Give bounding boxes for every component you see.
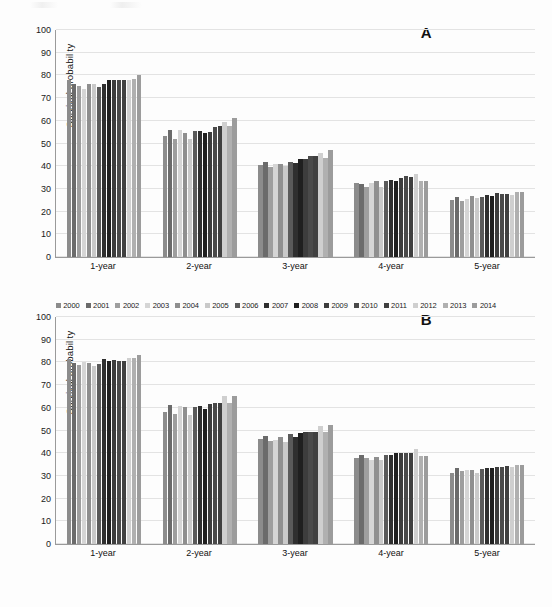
- bar: [168, 405, 172, 544]
- bar-group-bars: [67, 317, 142, 544]
- bar: [465, 470, 469, 544]
- y-axis-tick-label: 20: [41, 494, 51, 504]
- bar: [475, 473, 479, 544]
- bar-group: [152, 317, 248, 544]
- bar: [283, 166, 287, 257]
- bar: [183, 407, 187, 544]
- bar: [97, 364, 101, 544]
- y-axis-tick-label: 20: [41, 207, 51, 217]
- bar: [490, 468, 494, 544]
- bar: [92, 366, 96, 544]
- bar: [137, 355, 141, 544]
- bar: [87, 84, 91, 257]
- bar: [354, 183, 358, 257]
- bar: [67, 359, 71, 544]
- bar: [203, 409, 207, 544]
- bar: [485, 468, 489, 544]
- bar: [404, 453, 408, 544]
- bar: [495, 193, 499, 257]
- bar: [163, 412, 167, 544]
- bar: [97, 87, 101, 257]
- bar: [490, 196, 494, 257]
- bar: [117, 80, 121, 257]
- panel-b-plot: 0102030405060708090100: [55, 317, 535, 545]
- bar: [173, 139, 177, 257]
- y-axis-tick-label: 70: [41, 380, 51, 390]
- y-axis-tick-label: 10: [41, 516, 51, 526]
- bar: [409, 177, 413, 257]
- bar: [132, 358, 136, 544]
- panel-a-chart-area: Survival probability 0102030405060708090…: [0, 18, 552, 273]
- figure-page: A Survival probability 01020304050607080…: [0, 0, 552, 607]
- scan-artifact: [30, 2, 230, 8]
- bar: [137, 75, 141, 257]
- bar: [364, 458, 368, 544]
- bar-group: [343, 30, 439, 257]
- x-axis-tick-label: 1-year: [55, 261, 151, 271]
- bar: [208, 132, 212, 257]
- bar: [384, 455, 388, 544]
- y-axis-tick-label: 90: [41, 48, 51, 58]
- bar-group: [56, 30, 152, 257]
- bar: [67, 80, 71, 257]
- bar: [198, 131, 202, 257]
- bar-group-bars: [450, 317, 525, 544]
- bar: [127, 358, 131, 544]
- bar: [399, 453, 403, 544]
- y-axis-tick-label: 30: [41, 471, 51, 481]
- bar: [298, 433, 302, 544]
- bar: [369, 460, 373, 544]
- y-axis-tick-label: 10: [41, 229, 51, 239]
- bar: [323, 158, 327, 257]
- bar-group: [439, 30, 535, 257]
- bar-group: [248, 317, 344, 544]
- bar: [293, 163, 297, 257]
- bar: [293, 437, 297, 544]
- y-axis-tick-label: 100: [36, 312, 51, 322]
- bar: [188, 139, 192, 257]
- bar: [298, 159, 302, 257]
- bar: [359, 184, 363, 257]
- x-axis-tick-label: 2-year: [151, 261, 247, 271]
- bar: [374, 181, 378, 257]
- bar: [495, 467, 499, 544]
- bar: [520, 192, 524, 257]
- bar: [379, 187, 383, 257]
- y-axis-tick-label: 80: [41, 70, 51, 80]
- bar: [379, 460, 383, 544]
- bar: [87, 363, 91, 544]
- bar: [117, 361, 121, 544]
- panel-a-x-axis-labels: 1-year2-year3-year4-year5-year: [55, 261, 535, 271]
- bar: [515, 192, 519, 257]
- y-axis-tick-label: 40: [41, 448, 51, 458]
- bar: [475, 198, 479, 257]
- bar: [283, 442, 287, 544]
- y-axis-tick-label: 0: [46, 252, 51, 262]
- bar: [218, 403, 222, 544]
- bar-group-bars: [162, 30, 237, 257]
- bar: [278, 164, 282, 257]
- bar: [92, 84, 96, 257]
- bar: [112, 80, 116, 257]
- bar: [455, 197, 459, 257]
- bar: [313, 432, 317, 544]
- bar: [394, 453, 398, 544]
- bar: [515, 465, 519, 544]
- bar: [163, 136, 167, 257]
- bar: [364, 187, 368, 257]
- y-axis-tick-label: 80: [41, 357, 51, 367]
- bar: [510, 467, 514, 544]
- bar: [178, 130, 182, 257]
- bar-group-bars: [67, 30, 142, 257]
- bar: [193, 131, 197, 257]
- bar: [203, 133, 207, 257]
- bar: [424, 181, 428, 257]
- bar: [455, 468, 459, 544]
- bar: [374, 457, 378, 544]
- bar-group: [56, 317, 152, 544]
- y-axis-tick-label: 100: [36, 25, 51, 35]
- y-axis-tick-label: 30: [41, 184, 51, 194]
- y-axis-tick-label: 60: [41, 116, 51, 126]
- x-axis-tick-label: 3-year: [247, 548, 343, 558]
- bar: [122, 80, 126, 257]
